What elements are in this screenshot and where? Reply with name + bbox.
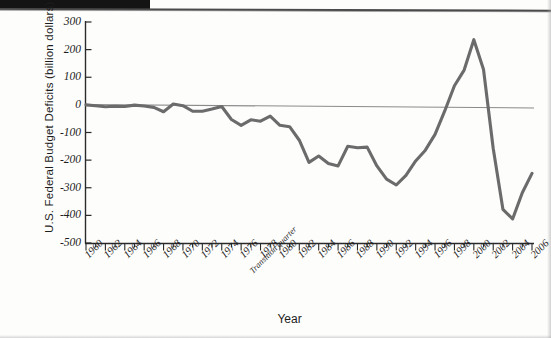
- x-axis-title: Year: [0, 312, 551, 326]
- deficit-line-series: [86, 40, 532, 219]
- plot-area: [0, 0, 551, 338]
- chart-page: U.S. Federal Budget Deficits (billion do…: [0, 0, 551, 338]
- axis-lines: [85, 21, 534, 244]
- y-tick-marks: [86, 22, 92, 243]
